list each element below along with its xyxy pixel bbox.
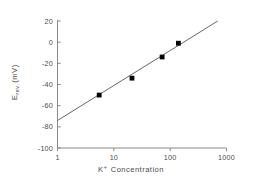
data-point-marker xyxy=(97,93,102,98)
x-tick-label: 1000 xyxy=(218,153,235,162)
svg-text:K+Concentration: K+Concentration xyxy=(98,164,164,174)
data-point-marker xyxy=(130,76,135,81)
regression-line xyxy=(58,21,218,120)
fit-line-path xyxy=(58,21,218,120)
y-axis-title: Erev(mV) xyxy=(10,64,20,100)
y-tick-label: -20 xyxy=(42,59,53,68)
data-point-markers xyxy=(97,41,181,98)
data-point-marker xyxy=(176,41,181,46)
x-tick-label: 1 xyxy=(55,153,59,162)
x-axis-title: K+Concentration xyxy=(98,164,164,174)
y-tick-label: -100 xyxy=(38,144,53,153)
y-tick-label: -40 xyxy=(42,80,53,89)
svg-text:Erev(mV): Erev(mV) xyxy=(10,64,20,100)
x-tick-label: 10 xyxy=(110,153,118,162)
chart-figure: 200-20-40-60-80-100 1101001000 Erev(mV) … xyxy=(0,0,257,183)
y-tick-label: -80 xyxy=(42,122,53,131)
y-tick-label: 0 xyxy=(49,38,53,47)
y-tick-label: -60 xyxy=(42,101,53,110)
x-axis-ticks: 1101001000 xyxy=(55,148,235,162)
data-point-marker xyxy=(160,55,165,60)
y-tick-label: 20 xyxy=(45,17,53,26)
plot-canvas: 200-20-40-60-80-100 1101001000 Erev(mV) … xyxy=(0,0,257,183)
axes-group xyxy=(58,20,227,148)
x-tick-label: 100 xyxy=(164,153,177,162)
